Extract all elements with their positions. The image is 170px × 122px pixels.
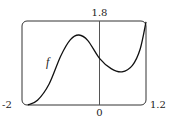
x-min-label: -2 [2,99,12,110]
function-graph: 1.8 -2 1.2 0 f [0,0,170,122]
x-max-label: 1.2 [150,99,166,110]
function-label: f [46,55,51,69]
x-origin-label: 0 [96,107,102,118]
viewing-window-frame [22,21,146,105]
y-max-label: 1.8 [92,7,108,18]
